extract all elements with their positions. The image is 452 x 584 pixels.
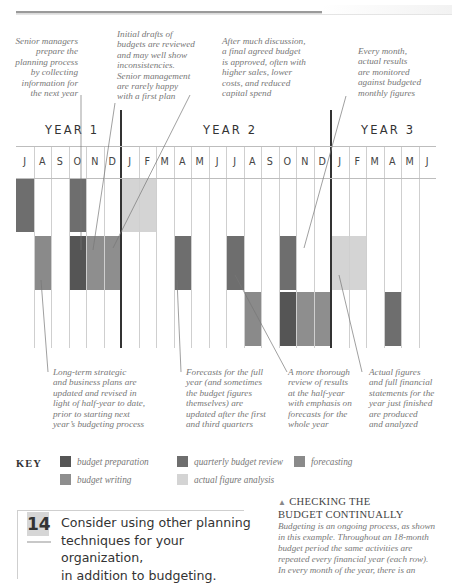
month-label: J [419, 146, 437, 178]
bar-quarterly-budget-review [279, 236, 297, 290]
month-label: J [121, 146, 139, 178]
month-label: O [69, 146, 87, 178]
month-label: M [156, 146, 174, 178]
swatch-quarterly-budget-review [177, 456, 188, 467]
month-label: N [86, 146, 104, 178]
note-long-term: Long-term strategic and business plans a… [53, 367, 163, 429]
key-item-budget-preparation: budget preparation [60, 456, 149, 467]
month-label: J [331, 146, 349, 178]
note-thorough-review: A more thorough review of results at the… [288, 367, 368, 429]
swatch-actual-figure-analysis [177, 474, 188, 485]
year-label-2: YEAR 2 [203, 123, 257, 137]
timeline-grid: JASONDJFMAMJJASONDJFMAMJ [16, 146, 436, 348]
bar-budget-writing [86, 236, 104, 290]
note-actual-figures: Actual figures and full financial statem… [369, 367, 452, 429]
tip-number-rule [27, 541, 51, 543]
bar-actual-figure-analysis [331, 236, 349, 290]
note-forecasts: Forecasts for the full year (and sometim… [186, 367, 286, 429]
month-label: A [244, 146, 262, 178]
month-label: N [296, 146, 314, 178]
month-label: S [261, 146, 279, 178]
month-label: S [51, 146, 69, 178]
key-label: KEY [16, 458, 42, 469]
month-label: F [349, 146, 367, 178]
key-item-quarterly-budget-review: quarterly budget review [177, 456, 283, 467]
caption-body: Budgeting is an ongoing process, as show… [278, 521, 452, 576]
bar-budget-preparation [69, 236, 87, 290]
month-label: D [314, 146, 332, 178]
month-label: D [104, 146, 122, 178]
key-item-budget-writing: budget writing [60, 474, 132, 485]
bar-budget-writing [314, 292, 332, 346]
header-rule [16, 11, 452, 15]
bar-actual-figure-analysis [121, 178, 139, 232]
month-label: O [279, 146, 297, 178]
month-label: J [226, 146, 244, 178]
tip-number: 14 [27, 512, 49, 536]
note-initial-drafts: Initial drafts of budgets are reviewed a… [117, 29, 207, 102]
bar-forecasting [244, 292, 262, 346]
caption-heading: ▲ CHECKING THE BUDGET CONTINUALLY [278, 496, 404, 521]
swatch-budget-preparation [60, 456, 71, 467]
bar-budget-writing [104, 236, 122, 290]
month-label: M [401, 146, 419, 178]
bar-budget-writing [296, 292, 314, 346]
month-label: M [191, 146, 209, 178]
bar-quarterly-budget-review [226, 236, 244, 290]
month-label: A [34, 146, 52, 178]
bar-actual-figure-analysis [139, 178, 157, 232]
key-item-actual-figure-analysis: actual figure analysis [177, 474, 274, 485]
bar-quarterly-budget-review [174, 236, 192, 290]
key-item-forecasting: forecasting [294, 456, 353, 467]
month-label: A [174, 146, 192, 178]
header-rule-line [16, 178, 436, 179]
swatch-forecasting [294, 456, 305, 467]
month-label: F [139, 146, 157, 178]
bar-actual-figure-analysis [349, 236, 367, 290]
month-label: J [209, 146, 227, 178]
swatch-budget-writing [60, 474, 71, 485]
bar-forecasting [34, 236, 52, 290]
note-final-budget: After much discussion, a final agreed bu… [222, 36, 317, 98]
month-label: M [366, 146, 384, 178]
year-label-3: YEAR 3 [361, 123, 415, 137]
triangle-up-icon: ▲ [278, 498, 286, 507]
bar-quarterly-budget-review [384, 292, 402, 346]
bar-quarterly-budget-review [16, 178, 34, 232]
bar-quarterly-budget-review [69, 178, 87, 232]
month-label: A [384, 146, 402, 178]
month-label: J [16, 146, 34, 178]
bar-budget-preparation [279, 292, 297, 346]
note-every-month: Every month, actual results are monitore… [358, 46, 438, 98]
note-senior-managers: Senior managers prepare the planning pro… [4, 36, 78, 98]
tip-text: Consider using other planning techniques… [61, 514, 251, 584]
year-label-1: YEAR 1 [45, 123, 99, 137]
header-title-fade [322, 5, 452, 14]
